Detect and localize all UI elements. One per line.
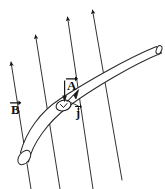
current-density-glyph: j [76, 107, 80, 119]
area-vector-label: A [67, 79, 76, 92]
field-line-4 [93, 10, 123, 180]
area-vector-glyph: A [67, 79, 76, 92]
vector-arrow-accent-j [75, 103, 82, 108]
vector-arrow-accent-a [66, 75, 78, 80]
magnetic-field-label: B [11, 103, 20, 116]
figure-vector-drawing [0, 0, 165, 189]
physics-figure-canvas: A B j [0, 0, 165, 189]
magnetic-field-glyph: B [11, 103, 20, 116]
conductor-outline [21, 47, 162, 163]
field-line-1 [11, 62, 31, 189]
current-density-label: j [76, 107, 80, 119]
curved-conductor-tube [21, 47, 162, 163]
vector-arrow-accent-b [10, 99, 22, 104]
